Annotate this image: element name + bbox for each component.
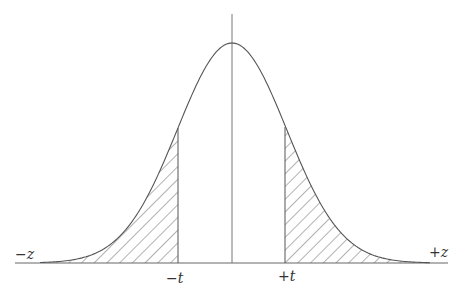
normal-curve-diagram: −z +z −t +t <box>0 0 465 299</box>
left-cutoff-label: −t <box>166 270 184 286</box>
left-tail-shaded-region <box>40 128 178 263</box>
right-tail-shaded-region <box>285 125 430 263</box>
left-axis-label: −z <box>15 246 35 262</box>
bell-curve <box>40 43 430 263</box>
right-cutoff-label: +t <box>278 268 296 284</box>
right-axis-label: +z <box>429 244 449 260</box>
